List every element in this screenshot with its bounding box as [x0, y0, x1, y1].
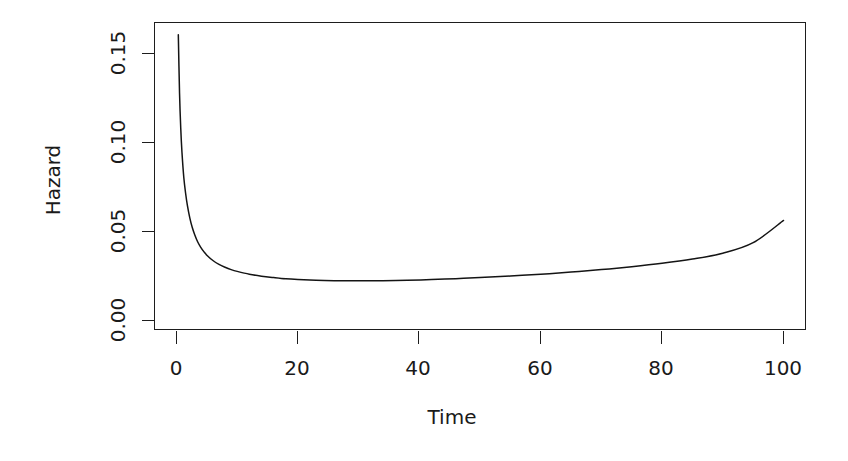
- chart-page: 0.00 0.05 0.10 0.15 0 20 40 60 80 100 Ha…: [0, 0, 848, 461]
- y-tick-label-0: 0.00: [106, 298, 130, 343]
- y-axis-tick-labels: 0.00 0.05 0.10 0.15: [106, 31, 130, 343]
- x-tick-label-2: 40: [405, 356, 430, 380]
- y-axis-ticks: [142, 54, 155, 321]
- x-tick-label-3: 60: [527, 356, 552, 380]
- plot-box-border: [155, 23, 806, 330]
- y-axis-title: Hazard: [41, 145, 65, 216]
- x-tick-label-5: 100: [764, 356, 802, 380]
- x-axis-title: Time: [427, 405, 477, 429]
- x-axis-ticks: [177, 331, 784, 344]
- x-axis-tick-labels: 0 20 40 60 80 100: [170, 356, 802, 380]
- x-tick-label-1: 20: [284, 356, 309, 380]
- y-tick-label-2: 0.10: [106, 120, 130, 165]
- y-tick-label-1: 0.05: [106, 209, 130, 254]
- hazard-curve: [178, 35, 783, 281]
- y-tick-label-3: 0.15: [106, 31, 130, 76]
- x-tick-label-0: 0: [170, 356, 183, 380]
- hazard-plot: 0.00 0.05 0.10 0.15 0 20 40 60 80 100 Ha…: [0, 0, 848, 461]
- x-tick-label-4: 80: [648, 356, 673, 380]
